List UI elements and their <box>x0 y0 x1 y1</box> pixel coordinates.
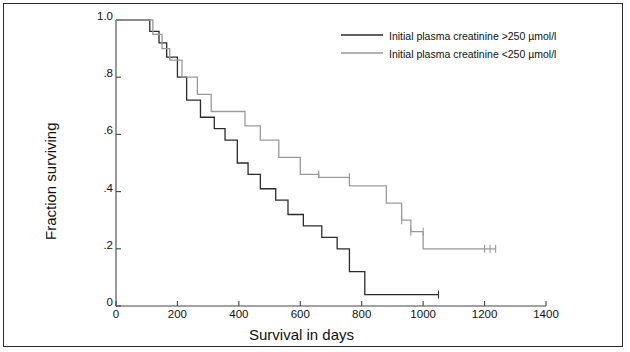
x-tick-label: 600 <box>283 308 317 320</box>
y-tick-label: 1.0 <box>71 10 113 22</box>
y-axis-title: Fraction surviving <box>42 122 59 240</box>
legend-label-0: Initial plasma creatinine >250 µmol/l <box>389 30 556 42</box>
axes <box>116 20 546 306</box>
x-tick-label: 400 <box>222 308 256 320</box>
series-layer <box>116 20 496 299</box>
series-0 <box>116 20 439 299</box>
figure-frame: 02004006008001000120014000.2.4.6.81.0 Fr… <box>3 3 623 347</box>
y-tick-label: .2 <box>71 239 113 251</box>
x-tick-label: 1400 <box>529 308 563 320</box>
x-tick-label: 0 <box>99 308 133 320</box>
x-tick-label: 200 <box>160 308 194 320</box>
y-tick-label: 0 <box>71 296 113 308</box>
y-tick-label: .6 <box>71 124 113 136</box>
x-tick-label: 1200 <box>468 308 502 320</box>
legend-swatches <box>341 35 383 53</box>
x-axis-title: Survival in days <box>249 326 354 343</box>
x-tick-label: 800 <box>345 308 379 320</box>
x-tick-label: 1000 <box>406 308 440 320</box>
y-tick-label: .8 <box>71 67 113 79</box>
legend-label-1: Initial plasma creatinine <250 µmol/l <box>389 48 556 60</box>
survival-curve <box>116 20 439 295</box>
x-axis-ticks <box>116 301 546 306</box>
y-tick-label: .4 <box>71 182 113 194</box>
y-axis-ticks <box>116 20 121 306</box>
